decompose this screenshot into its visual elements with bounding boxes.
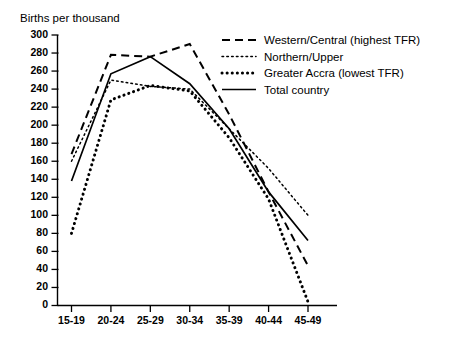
y-tick-label: 280 bbox=[30, 46, 48, 58]
x-tick-label: 30-34 bbox=[176, 314, 203, 326]
series-line-dotted-fine bbox=[72, 80, 309, 215]
x-tick-label: 35-39 bbox=[216, 314, 243, 326]
y-tick-label: 200 bbox=[30, 118, 48, 130]
y-tick-label: 20 bbox=[36, 280, 48, 292]
y-tick-label: 160 bbox=[30, 154, 48, 166]
y-tick-label: 100 bbox=[30, 208, 48, 220]
chart-container: Births per thousand 30028026024022020018… bbox=[0, 0, 450, 348]
series-line-dotted-bold bbox=[72, 85, 309, 301]
y-tick-label: 260 bbox=[30, 64, 48, 76]
legend-label: Total country bbox=[264, 84, 329, 96]
x-tick-label: 15-19 bbox=[58, 314, 85, 326]
y-axis: 3002802602402202001801601401201008060402… bbox=[30, 28, 58, 311]
chart-title: Births per thousand bbox=[20, 12, 120, 24]
x-tick-label: 20-24 bbox=[97, 314, 124, 326]
x-tick-label: 25-29 bbox=[137, 314, 164, 326]
y-tick-label: 60 bbox=[36, 244, 48, 256]
legend-label: Northern/Upper bbox=[264, 51, 343, 63]
y-tick-label: 240 bbox=[30, 82, 48, 94]
x-tick-label: 45-49 bbox=[295, 314, 322, 326]
y-tick-label: 0 bbox=[42, 298, 48, 310]
chart-legend: Western/Central (highest TFR)Northern/Up… bbox=[222, 34, 420, 96]
births-per-thousand-line-chart: Births per thousand 30028026024022020018… bbox=[0, 0, 450, 348]
legend-label: Western/Central (highest TFR) bbox=[264, 34, 420, 46]
y-tick-label: 300 bbox=[30, 28, 48, 40]
y-tick-label: 40 bbox=[36, 262, 48, 274]
y-tick-label: 120 bbox=[30, 190, 48, 202]
y-tick-label: 220 bbox=[30, 100, 48, 112]
y-tick-label: 80 bbox=[36, 226, 48, 238]
y-tick-label: 180 bbox=[30, 136, 48, 148]
x-axis: 15-1920-2425-2930-3435-3940-4445-49 bbox=[58, 306, 322, 327]
y-tick-label: 140 bbox=[30, 172, 48, 184]
x-tick-label: 40-44 bbox=[255, 314, 282, 326]
legend-label: Greater Accra (lowest TFR) bbox=[264, 67, 404, 79]
